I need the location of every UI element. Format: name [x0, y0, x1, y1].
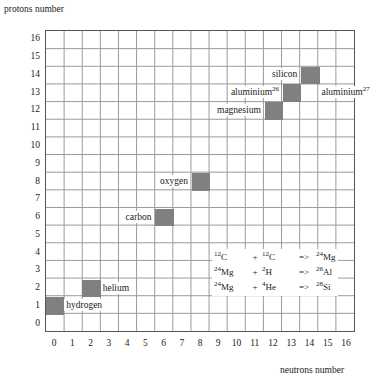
- x-tick-1: 1: [64, 338, 80, 349]
- nuclide-label-silicon: silicon: [270, 68, 299, 80]
- nuclide-label-oxygen: oxygen: [158, 175, 190, 187]
- y-tick-2: 2: [18, 282, 40, 293]
- x-tick-3: 3: [101, 338, 117, 349]
- nuclide-label-magnesium: magnesium: [215, 104, 263, 116]
- y-tick-4: 4: [18, 247, 40, 258]
- nuclide-label-hydrogen: hydrogen: [64, 299, 104, 311]
- y-tick-5: 5: [18, 229, 40, 240]
- nuclide-label-carbon: carbon: [124, 211, 154, 223]
- x-tick-5: 5: [137, 338, 153, 349]
- nuclide-cell-magnesium: [265, 102, 283, 120]
- x-tick-13: 13: [283, 338, 299, 349]
- nuclide-cell-silicon: [301, 67, 319, 85]
- y-tick-11: 11: [18, 122, 40, 133]
- y-tick-14: 14: [18, 69, 40, 80]
- nuclide-label-aluminium26: aluminium26: [229, 86, 281, 98]
- y-tick-12: 12: [18, 104, 40, 115]
- nuclide-cell-aluminium26: [283, 84, 301, 102]
- nuclide-cell-hydrogen: [46, 297, 64, 315]
- y-tick-9: 9: [18, 158, 40, 169]
- y-tick-16: 16: [18, 33, 40, 44]
- y-tick-7: 7: [18, 193, 40, 204]
- x-tick-6: 6: [156, 338, 172, 349]
- x-tick-15: 15: [320, 338, 336, 349]
- y-tick-8: 8: [18, 176, 40, 187]
- y-tick-13: 13: [18, 87, 40, 98]
- x-tick-12: 12: [265, 338, 281, 349]
- y-tick-1: 1: [18, 300, 40, 311]
- nuclide-cell-carbon: [155, 209, 173, 227]
- equation-row-3: 24Mg+4He=>28Si: [214, 280, 336, 295]
- nuclide-cell-helium: [82, 280, 100, 298]
- reaction-equations: 12C+12C=>24Mg24Mg+2H=>26Al24Mg+4He=>28Si: [212, 249, 338, 296]
- x-tick-7: 7: [174, 338, 190, 349]
- nuclide-label-aluminium27: aluminium27: [320, 86, 372, 98]
- equation-row-2: 24Mg+2H=>26Al: [214, 265, 336, 280]
- x-tick-9: 9: [210, 338, 226, 349]
- x-axis-title: neutrons number: [280, 365, 344, 375]
- equation-row-1: 12C+12C=>24Mg: [214, 250, 336, 265]
- y-tick-0: 0: [18, 318, 40, 329]
- y-tick-6: 6: [18, 211, 40, 222]
- x-tick-10: 10: [228, 338, 244, 349]
- y-tick-3: 3: [18, 264, 40, 275]
- x-tick-0: 0: [46, 338, 62, 349]
- nuclide-label-helium: helium: [101, 282, 131, 294]
- x-tick-14: 14: [301, 338, 317, 349]
- chart-root: protons number neutrons number 012345678…: [0, 0, 383, 386]
- nuclide-cell-oxygen: [192, 173, 210, 191]
- x-tick-11: 11: [247, 338, 263, 349]
- x-tick-2: 2: [83, 338, 99, 349]
- y-tick-15: 15: [18, 51, 40, 62]
- x-tick-4: 4: [119, 338, 135, 349]
- y-axis-title: protons number: [4, 4, 64, 14]
- x-tick-16: 16: [338, 338, 354, 349]
- x-tick-8: 8: [192, 338, 208, 349]
- y-tick-10: 10: [18, 140, 40, 151]
